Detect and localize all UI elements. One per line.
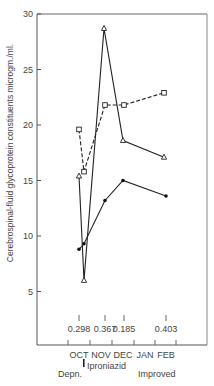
y-tick-label: 30 <box>23 9 33 19</box>
y-tick-label: 15 <box>23 176 33 186</box>
square-marker <box>162 91 167 96</box>
triangle-marker <box>76 173 81 178</box>
square-marker <box>77 127 82 132</box>
series-line-triangles <box>79 28 164 280</box>
square-marker <box>122 103 127 108</box>
triangle-marker <box>120 138 125 143</box>
series-line-dots <box>79 181 166 250</box>
phase-label-depn: Depn. <box>58 369 82 379</box>
triangle-marker <box>101 25 106 30</box>
annotation-value: 0.403 <box>155 324 178 334</box>
y-axis-label: Cerebrospinal-fluid glycoprotein constit… <box>5 44 15 262</box>
x-tick-label: OCT <box>70 350 90 360</box>
y-tick-label: 5 <box>28 287 33 297</box>
square-marker <box>82 169 87 174</box>
y-tick-label: 25 <box>23 65 33 75</box>
dot-marker <box>121 179 125 183</box>
annotation-value: 0.298 <box>68 324 91 334</box>
phase-label-improved: Improved <box>138 369 176 379</box>
square-marker <box>103 103 108 108</box>
triangle-marker <box>81 277 86 282</box>
x-tick-label: JAN <box>136 350 153 360</box>
annotation-value: 0.185 <box>113 324 136 334</box>
y-tick-label: 10 <box>23 231 33 241</box>
x-tick-label: FEB <box>157 350 175 360</box>
dot-marker <box>77 248 81 252</box>
iproniazid-marker <box>83 359 85 367</box>
y-tick-label: 20 <box>23 120 33 130</box>
dot-marker <box>82 242 86 246</box>
chart-svg: 51015202530Cerebrospinal-fluid glycoprot… <box>0 0 214 386</box>
dot-marker <box>103 199 107 203</box>
phase-label-iproniazid: Iproniazid <box>87 361 126 371</box>
x-tick-label: NOV <box>91 350 111 360</box>
dot-marker <box>164 194 168 198</box>
x-tick-label: DEC <box>113 350 133 360</box>
